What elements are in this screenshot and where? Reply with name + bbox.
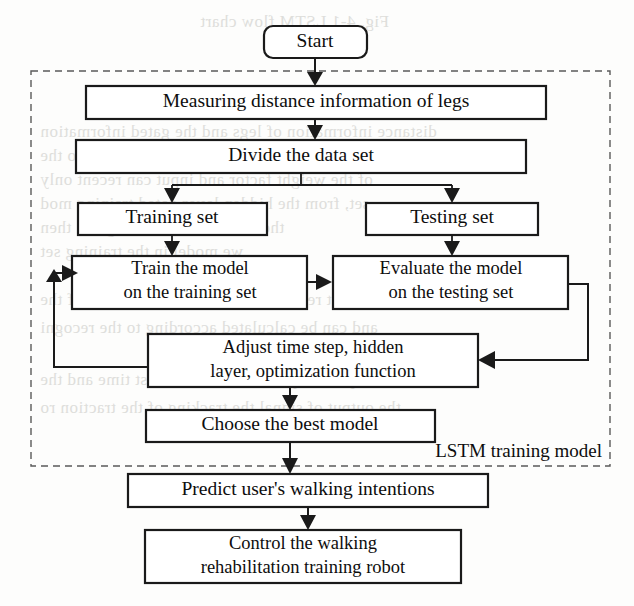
arrowhead-divide-to-testing	[444, 188, 460, 203]
arrowhead-divide-to-training	[164, 188, 180, 203]
node-predict-label: Predict user's walking intentions	[181, 478, 434, 499]
node-adjust-label-line1: Adjust time step, hidden	[223, 337, 404, 357]
node-measure-label: Measuring distance information of legs	[163, 90, 470, 111]
arrowhead-predict-to-control	[300, 515, 316, 530]
node-choose-best-model-label: Choose the best model	[201, 413, 379, 434]
node-control-label-line2: rehabilitation training robot	[201, 557, 406, 577]
arrowhead-adjust-to-choose	[282, 395, 298, 410]
flowchart-svg: Start Measuring distance information of …	[0, 0, 634, 606]
node-evaluate-model-label-line1: Evaluate the model	[380, 258, 523, 278]
node-train-model-label-line1: Train the model	[131, 258, 249, 278]
node-divide-label: Divide the data set	[228, 144, 374, 165]
group-label-lstm-training-model: LSTM training model	[435, 440, 602, 461]
arrowhead-training-set-to-train	[164, 241, 180, 256]
node-adjust-label-line2: layer, optimization function	[210, 361, 415, 381]
node-testing-set-label: Testing set	[410, 206, 494, 227]
node-start-label: Start	[297, 30, 334, 51]
arrowhead-measure-to-divide	[307, 125, 323, 140]
node-train-model-label-line2: on the training set	[123, 282, 257, 302]
node-training-set-label: Training set	[126, 206, 220, 227]
node-evaluate-model-label-line2: on the testing set	[389, 282, 515, 302]
arrowhead-adjust-to-train-feedback-up	[46, 269, 62, 282]
figure-root: Fig. 4-1 LSTM flow chartdistance informa…	[0, 0, 634, 606]
node-control-label-line1: Control the walking	[229, 533, 377, 553]
arrowhead-testing-set-to-evaluate	[444, 241, 460, 256]
arrowhead-start-to-measure	[307, 72, 323, 86]
arrowhead-evaluate-to-adjust-feedback	[478, 351, 495, 369]
arrowhead-train-to-evaluate	[316, 274, 332, 290]
